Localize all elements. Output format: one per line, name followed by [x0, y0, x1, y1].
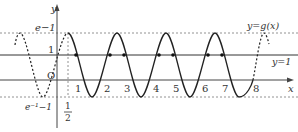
y-one-label: 1 — [48, 44, 54, 55]
curve-dashed-left — [15, 33, 68, 97]
x-tick-1: 1 — [75, 83, 81, 94]
intersection-point — [122, 53, 126, 57]
half-numerator: 1 — [65, 101, 71, 111]
x-tick-3: 3 — [124, 83, 130, 94]
intersection-point — [171, 53, 175, 57]
x-tick-5: 5 — [173, 83, 179, 94]
e-minus-1-label: e−1 — [35, 22, 56, 33]
x-tick-7: 7 — [222, 83, 228, 94]
intersection-point — [157, 53, 161, 57]
intersection-point — [74, 53, 78, 57]
x-tick-8: 8 — [253, 83, 259, 94]
x-axis-arrow-icon — [287, 78, 294, 83]
graph-figure: y x O e−1 1 e⁻¹−1 1 2 1 2 3 4 5 6 7 8 y=… — [0, 0, 298, 132]
curve-dashed-right — [253, 33, 269, 80]
graph-canvas: y x O e−1 1 e⁻¹−1 1 2 1 2 3 4 5 6 7 8 y=… — [0, 0, 298, 132]
intersection-point — [220, 53, 224, 57]
half-denominator: 2 — [65, 113, 71, 123]
y-axis-label: y — [50, 3, 57, 14]
x-tick-4: 4 — [153, 83, 159, 94]
intersection-point — [206, 53, 210, 57]
x-axis-label: x — [288, 83, 294, 94]
line-label: y=1 — [271, 56, 291, 67]
x-tick-2: 2 — [104, 83, 110, 94]
intersection-point — [108, 53, 112, 57]
e-inverse-minus-1-label: e⁻¹−1 — [25, 102, 52, 112]
curve-label: y=g(x) — [246, 20, 279, 31]
x-tick-6: 6 — [202, 83, 208, 94]
origin-label: O — [47, 70, 55, 81]
